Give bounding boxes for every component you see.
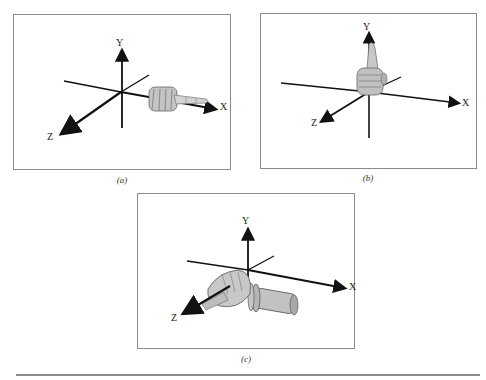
panel-c: Y X Z: [137, 193, 355, 349]
caption-c: (c): [231, 354, 261, 364]
panel-b: Y X Z: [260, 13, 477, 169]
coordinate-axes-diagram-a: Y X Z: [14, 15, 232, 171]
pointing-hand-icon: [149, 87, 208, 111]
x-axis: [369, 92, 458, 103]
x-axis-label: X: [349, 281, 356, 292]
z-axis-label: Z: [47, 131, 53, 142]
coordinate-axes-diagram-c: Y X Z: [138, 194, 356, 350]
y-axis-label: Y: [116, 37, 123, 48]
x-axis-label: X: [462, 97, 470, 108]
caption-a: (a): [107, 175, 137, 185]
coordinate-axes-diagram-b: Y X Z: [261, 14, 478, 170]
y-axis-label: Y: [242, 215, 249, 226]
horizontal-rule: [16, 374, 480, 376]
y-axis-label: Y: [363, 21, 370, 32]
x-axis-label: X: [220, 101, 228, 112]
z-axis-label: Z: [311, 117, 317, 128]
caption-b: (b): [353, 173, 383, 183]
thumbs-up-hand-icon: [357, 43, 387, 95]
x-axis: [248, 270, 344, 288]
z-axis-label: Z: [171, 312, 177, 323]
z-axis: [64, 92, 121, 132]
panel-a: Y X Z: [13, 14, 231, 170]
z-axis: [322, 92, 369, 121]
